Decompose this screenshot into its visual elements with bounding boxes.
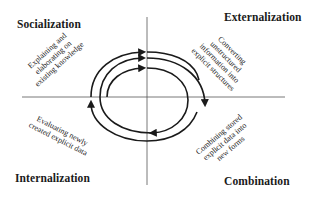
- seci-knowledge-spiral-diagram: Socialization Explaining and elaborating…: [0, 0, 312, 198]
- spiral-outer-bottom: [91, 103, 197, 141]
- quadrant-title-socialization: Socialization: [17, 18, 81, 30]
- spiral-inner-arc: [107, 68, 143, 97]
- quadrant-title-externalization: Externalization: [224, 11, 302, 23]
- spiral-outer-top-right: [147, 52, 199, 80]
- quadrant-title-internalization: Internalization: [15, 172, 90, 184]
- quadrant-title-combination: Combination: [224, 175, 290, 187]
- spiral-middle-loop-right: [147, 68, 188, 133]
